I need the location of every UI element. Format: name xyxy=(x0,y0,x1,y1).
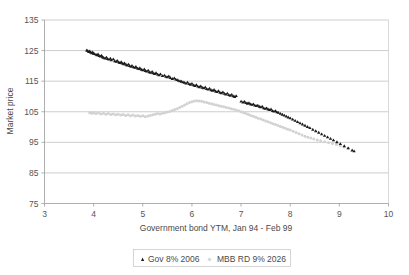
y-tick-label: 75 xyxy=(29,199,39,209)
y-tick-label: 85 xyxy=(29,168,39,178)
x-tick-label: 6 xyxy=(190,209,195,219)
data-point xyxy=(314,129,317,132)
data-point xyxy=(312,137,315,140)
data-point xyxy=(327,141,330,144)
data-point xyxy=(329,137,332,140)
legend-label-mbb: MBB RD 9% 2026 xyxy=(217,254,286,264)
data-point xyxy=(332,139,335,142)
data-point xyxy=(292,130,295,133)
legend-marker-mbb-icon xyxy=(208,258,212,262)
data-point xyxy=(323,140,326,143)
x-tick-label: 5 xyxy=(140,209,145,219)
data-point xyxy=(323,134,326,137)
data-point xyxy=(343,144,346,147)
y-tick-label: 95 xyxy=(29,137,39,147)
data-point xyxy=(316,138,319,141)
data-point xyxy=(303,135,306,138)
x-axis-title: Government bond YTM, Jan 94 - Feb 99 xyxy=(140,223,293,233)
data-point xyxy=(320,132,323,135)
data-point xyxy=(306,136,309,139)
data-point xyxy=(295,131,298,134)
y-axis-title: Market price xyxy=(5,87,15,134)
legend-label-gov: Gov 8% 2006 xyxy=(148,254,200,264)
x-tick-label: 8 xyxy=(288,209,293,219)
y-tick-label: 115 xyxy=(25,76,39,86)
y-axis-tick-labels: 758595105115125135 xyxy=(24,15,38,209)
data-point xyxy=(309,137,312,140)
x-tick-label: 10 xyxy=(384,209,394,219)
gridlines-group xyxy=(45,20,389,173)
data-point xyxy=(335,140,338,143)
x-tick-label: 4 xyxy=(91,209,96,219)
data-point xyxy=(319,139,322,142)
y-tick-label: 135 xyxy=(24,15,38,25)
data-point xyxy=(289,129,292,132)
y-tick-label: 105 xyxy=(24,107,38,117)
data-point xyxy=(298,132,301,135)
data-point xyxy=(335,143,338,146)
x-tick-label: 3 xyxy=(42,209,47,219)
data-point xyxy=(326,135,329,138)
data-point xyxy=(331,142,334,145)
data-point xyxy=(301,133,304,136)
data-point xyxy=(317,131,320,134)
x-axis-tick-labels: 345678910 xyxy=(42,209,393,219)
chart-container: 758595105115125135 345678910 Government … xyxy=(0,0,409,275)
x-tick-label: 7 xyxy=(239,209,244,219)
legend-marker-gov-icon xyxy=(141,257,144,261)
scatter-chart: 758595105115125135 345678910 Government … xyxy=(0,0,409,275)
data-point xyxy=(311,128,314,131)
series-gov-8-2006 xyxy=(85,49,356,153)
x-tick-label: 9 xyxy=(337,209,342,219)
y-tick-label: 125 xyxy=(24,46,38,56)
